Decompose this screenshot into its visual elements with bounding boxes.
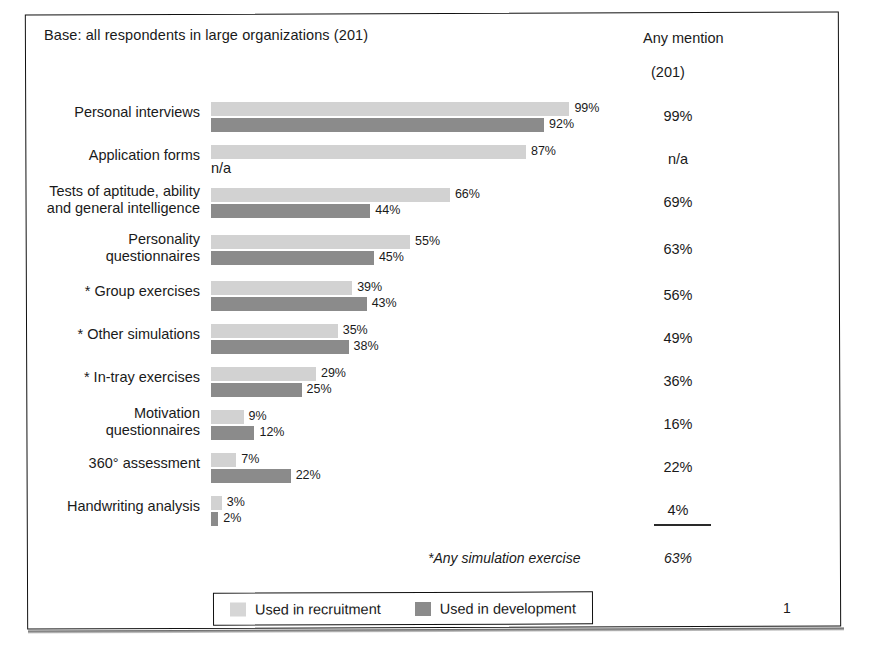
bar-recruitment <box>211 188 450 202</box>
page-number: 1 <box>783 600 791 616</box>
bar-value-label: 22% <box>296 468 321 482</box>
bar-value-label: 45% <box>379 250 404 264</box>
bar-group: 7%22% <box>211 453 631 485</box>
bar-recruitment <box>211 410 244 424</box>
legend-item-development: Used in development <box>415 600 576 617</box>
bar-value-label: 92% <box>549 117 574 131</box>
bar-recruitment <box>211 235 410 249</box>
chart-stage: Base: all respondents in large organizat… <box>0 0 869 662</box>
bar-development <box>211 340 349 354</box>
bar-development <box>211 469 291 483</box>
bar-value-label: 35% <box>343 323 368 337</box>
any-mention-value: 49% <box>643 330 713 346</box>
any-mention-total-rule <box>654 524 711 526</box>
simulation-footnote-label: *Any simulation exercise <box>428 550 581 566</box>
bar-group: 99%92% <box>211 102 631 134</box>
legend-swatch-recruitment-icon <box>230 602 246 616</box>
bar-value-label: 43% <box>372 296 397 310</box>
any-mention-value: 4% <box>643 502 713 518</box>
any-mention-value: 56% <box>643 287 713 303</box>
bar-value-label: 12% <box>259 425 284 439</box>
any-mention-value: 63% <box>643 241 713 257</box>
bar-development <box>211 426 254 440</box>
bar-group: 3%2% <box>211 496 631 528</box>
bar-recruitment <box>211 367 316 381</box>
category-label: * Group exercises <box>0 283 200 300</box>
bar-development <box>211 251 374 265</box>
bar-value-label: 29% <box>321 366 346 380</box>
category-label: * In-tray exercises <box>0 369 200 386</box>
bar-recruitment <box>211 281 352 295</box>
category-label: * Other simulations <box>0 326 200 343</box>
bar-value-na: n/a <box>211 160 231 176</box>
bar-recruitment <box>211 324 338 338</box>
bar-value-label: 39% <box>357 280 382 294</box>
legend-label-development: Used in development <box>440 600 576 616</box>
bar-development <box>211 297 367 311</box>
legend-item-recruitment: Used in recruitment <box>230 601 381 618</box>
any-mention-value: 16% <box>643 416 713 432</box>
bar-value-label: 2% <box>223 511 241 525</box>
any-mention-value: 69% <box>643 194 713 210</box>
bar-development <box>211 118 544 132</box>
bar-recruitment <box>211 453 236 467</box>
bar-value-label: 38% <box>354 339 379 353</box>
category-label: Handwriting analysis <box>0 498 200 515</box>
bar-development <box>211 383 302 397</box>
bar-group: 9%12% <box>211 410 631 442</box>
bar-value-label: 7% <box>241 452 259 466</box>
bar-recruitment <box>211 102 569 116</box>
category-label: Personal interviews <box>0 104 200 121</box>
bar-recruitment <box>211 145 526 159</box>
any-mention-value: 36% <box>643 373 713 389</box>
bar-group: 29%25% <box>211 367 631 399</box>
bar-value-label: 9% <box>249 409 267 423</box>
legend-label-recruitment: Used in recruitment <box>255 601 381 617</box>
bar-value-label: 99% <box>574 101 599 115</box>
bar-group: 55%45% <box>211 235 631 267</box>
bar-value-label: 55% <box>415 234 440 248</box>
category-label: Tests of aptitude, ability and general i… <box>0 183 200 217</box>
bar-value-label: 25% <box>307 382 332 396</box>
any-mention-value: 99% <box>643 108 713 124</box>
simulation-footnote-value: 63% <box>643 550 713 566</box>
bar-value-label: 66% <box>455 187 480 201</box>
bar-development <box>211 204 370 218</box>
any-mention-value: n/a <box>643 151 713 167</box>
bar-value-label: 44% <box>375 203 400 217</box>
bar-value-label: 3% <box>227 495 245 509</box>
category-label: Application forms <box>0 147 200 164</box>
category-label: 360° assessment <box>0 455 200 472</box>
bar-recruitment <box>211 496 222 510</box>
bar-group: 39%43% <box>211 281 631 313</box>
bar-group: 35%38% <box>211 324 631 356</box>
bar-development <box>211 512 218 526</box>
legend-swatch-development-icon <box>415 601 431 615</box>
chart-legend: Used in recruitment Used in development <box>213 591 593 625</box>
bar-group: 87%n/a <box>211 145 631 177</box>
bar-group: 66%44% <box>211 188 631 220</box>
category-label: Personality questionnaires <box>0 231 200 265</box>
bar-value-label: 87% <box>531 144 556 158</box>
category-label: Motivation questionnaires <box>0 405 200 439</box>
any-mention-value: 22% <box>643 459 713 475</box>
